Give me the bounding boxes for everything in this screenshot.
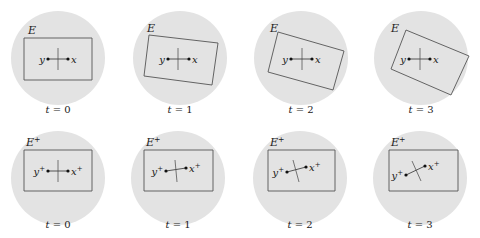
point-x-dot <box>304 165 307 168</box>
point-y-label-sup: + <box>278 166 284 174</box>
region-label: E <box>269 22 278 35</box>
point-y-dot <box>285 170 288 173</box>
time-label: t = 0 <box>45 219 70 230</box>
point-y-dot <box>407 57 410 60</box>
point-y-dot <box>46 169 49 172</box>
point-x-label-sup: + <box>315 161 321 169</box>
point-y-label: y <box>38 54 45 65</box>
point-y-label-sup: + <box>397 169 403 177</box>
point-x-label: x <box>433 54 439 65</box>
disk-region <box>253 131 347 225</box>
point-x-label-base: x <box>433 54 439 65</box>
region-label-base: E <box>269 136 278 149</box>
point-x-dot <box>423 164 426 167</box>
time-label: t = 2 <box>287 219 312 230</box>
point-x-dot <box>428 57 431 60</box>
point-y-label-base: y <box>281 54 288 65</box>
panel-row0-t3: Eyxt = 3 <box>374 11 469 115</box>
point-x-label: x <box>71 54 77 65</box>
region-label-sup: + <box>154 135 160 144</box>
point-x-label-sup: + <box>77 165 83 173</box>
rotation-diagram: Eyxt = 0Eyxt = 1Eyxt = 2Eyxt = 3E+y+x+t … <box>0 0 480 238</box>
time-label: t = 2 <box>288 104 313 115</box>
panel-row1-t3: E+y+x+t = 3 <box>373 131 467 230</box>
time-label: t = 0 <box>45 104 70 115</box>
region-label-base: E <box>390 22 399 35</box>
point-x-dot <box>66 169 69 172</box>
point-x-label-sup: + <box>195 162 201 170</box>
panel-row1-t0: E+y+x+t = 0 <box>11 131 105 230</box>
region-label-sup: + <box>34 135 40 144</box>
disk-region <box>374 11 468 105</box>
region-label-base: E <box>25 136 34 149</box>
region-label: E <box>27 24 36 37</box>
point-y-label: y <box>281 54 288 65</box>
point-x-label-base: x <box>71 54 77 65</box>
time-label: t = 1 <box>165 219 190 230</box>
point-x-dot <box>187 57 190 60</box>
panel-row0-t2: Eyxt = 2 <box>254 11 348 115</box>
panel-row1-t2: E+y+x+t = 2 <box>253 131 347 230</box>
panel-row0-t0: Eyxt = 0 <box>11 11 105 115</box>
region-label: E <box>390 22 399 35</box>
point-x-label-base: x <box>192 54 198 65</box>
region-label-sup: + <box>278 135 284 144</box>
panel-row0-t1: Eyxt = 1 <box>133 11 227 115</box>
point-y-dot <box>289 57 292 60</box>
region-label-sup: + <box>399 135 405 144</box>
region-label-base: E <box>27 24 36 37</box>
point-y-dot <box>166 57 169 60</box>
point-y-label-sup: + <box>39 165 45 173</box>
region-label-base: E <box>269 22 278 35</box>
point-y-dot <box>404 173 407 176</box>
point-x-dot <box>184 166 187 169</box>
point-x-label-sup: + <box>434 160 440 168</box>
time-label: t = 1 <box>167 104 192 115</box>
disk-region <box>254 11 348 105</box>
point-x-label: x <box>192 54 198 65</box>
point-x-dot <box>66 57 69 60</box>
point-x-label: x <box>315 54 321 65</box>
point-y-label-base: y <box>38 54 45 65</box>
region-label: E <box>146 22 155 35</box>
region-label-base: E <box>390 136 399 149</box>
point-x-dot <box>310 57 313 60</box>
panel-row1-t1: E+y+x+t = 1 <box>131 131 225 230</box>
point-y-dot <box>164 169 167 172</box>
point-x-label-base: x <box>315 54 321 65</box>
point-y-label: y <box>158 54 165 65</box>
region-label-base: E <box>145 136 154 149</box>
point-y-label-base: y <box>158 54 165 65</box>
time-label: t = 3 <box>407 219 432 230</box>
point-y-dot <box>46 57 49 60</box>
point-y-label: y <box>399 54 406 65</box>
point-y-label-sup: + <box>157 165 163 173</box>
point-y-label-base: y <box>399 54 406 65</box>
time-label: t = 3 <box>408 104 433 115</box>
region-label-base: E <box>146 22 155 35</box>
